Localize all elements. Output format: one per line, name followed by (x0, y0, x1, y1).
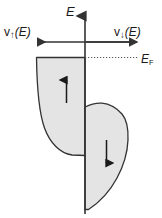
spin-up-band-region (37, 58, 86, 156)
fermi-level-subscript: F (149, 58, 154, 67)
velocity-spin-up-argument: (E) (15, 25, 31, 39)
figure-container: E v↑(E) v↓(E) EF (0, 0, 162, 218)
energy-axis-label-text: E (66, 4, 75, 19)
fermi-level-label: EF (141, 53, 154, 67)
velocity-spin-down-argument: (E) (125, 25, 141, 39)
fermi-level-symbol: E (141, 52, 149, 66)
velocity-spin-up-label: v↑(E) (4, 26, 31, 40)
velocity-spin-down-label: v↓(E) (114, 26, 141, 40)
energy-axis-label: E (66, 5, 75, 18)
